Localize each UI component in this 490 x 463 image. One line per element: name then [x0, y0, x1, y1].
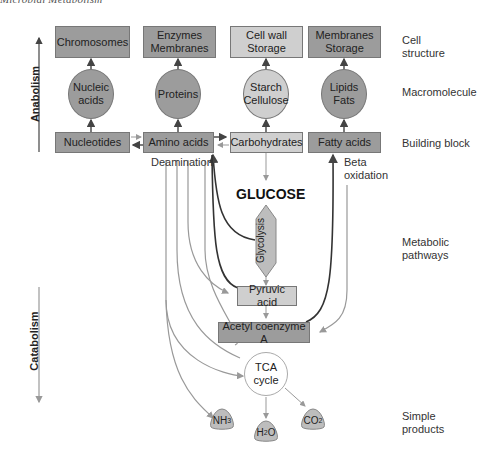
- cell-structure-membranes-storage: Membranes Storage: [308, 26, 381, 58]
- label-line: products: [402, 423, 444, 436]
- circle-text: Starch: [250, 81, 282, 94]
- box-text: Acetyl coenzyme A: [219, 320, 309, 346]
- box-text: Fatty acids: [318, 136, 371, 149]
- macromolecule-starch-cellulose: Starch Cellulose: [243, 69, 289, 119]
- formula: NH: [213, 415, 227, 426]
- cell-structure-chromosomes: Chromosomes: [55, 26, 130, 58]
- box-text: Enzymes: [157, 29, 202, 42]
- circle-text: Lipids: [330, 81, 359, 94]
- anabolism-label: Anabolism: [29, 66, 41, 122]
- pyruvic-acid-box: Pyruvic acid: [237, 286, 297, 306]
- product-co2: CO2: [299, 412, 327, 428]
- box-text: Membranes: [315, 29, 373, 42]
- beta-oxidation-label: Beta oxidation: [344, 156, 388, 182]
- glycolysis-label: Glycolysis: [255, 218, 266, 263]
- label-line: pathways: [402, 249, 449, 262]
- circle-text: Proteins: [158, 88, 198, 101]
- building-block-carbohydrates: Carbohydrates: [230, 132, 303, 153]
- label-line: Simple: [402, 410, 444, 423]
- box-text: Amino acids: [149, 136, 209, 149]
- macromolecule-lipids-fats: Lipids Fats: [321, 69, 367, 119]
- box-text: Storage: [325, 42, 364, 55]
- product-nh3: NH3: [208, 412, 236, 428]
- label-line: Beta: [344, 156, 388, 169]
- pathway-arrows: [0, 0, 490, 463]
- macromolecule-nucleic-acids: Nucleic acids: [68, 69, 114, 119]
- label-line: structure: [402, 47, 445, 60]
- product-h2o: H2O: [252, 424, 280, 440]
- box-text: Chromosomes: [57, 36, 129, 49]
- box-text: Pyruvic acid: [238, 283, 296, 309]
- level-macromolecule: Macromolecule: [402, 86, 477, 99]
- building-block-nucleotides: Nucleotides: [55, 132, 130, 153]
- box-text: Carbohydrates: [230, 136, 302, 149]
- catabolism-label: Catabolism: [28, 311, 40, 370]
- tca-text: TCA: [255, 361, 277, 374]
- circle-text: acids: [78, 94, 104, 107]
- subscript: 3: [227, 417, 231, 424]
- circle-text: Fats: [333, 94, 354, 107]
- level-cell-structure: Cell structure: [402, 34, 445, 60]
- formula: O: [268, 427, 276, 438]
- glucose-label: GLUCOSE: [236, 186, 305, 202]
- level-simple-products: Simple products: [402, 410, 444, 436]
- circle-text: Nucleic: [73, 81, 109, 94]
- label-line: Cell: [402, 34, 445, 47]
- box-text: Cell wall: [246, 29, 287, 42]
- building-block-amino-acids: Amino acids: [143, 132, 214, 153]
- tca-text: cycle: [253, 374, 278, 387]
- level-building-block: Building block: [402, 137, 470, 150]
- building-block-fatty-acids: Fatty acids: [308, 132, 381, 153]
- macromolecule-proteins: Proteins: [155, 69, 201, 119]
- circle-text: Cellulose: [243, 94, 288, 107]
- box-text: Membranes: [150, 42, 208, 55]
- formula: H: [257, 427, 264, 438]
- cell-structure-enzymes-membranes: Enzymes Membranes: [143, 26, 216, 58]
- label-line: oxidation: [344, 169, 388, 182]
- cell-structure-cell-wall-storage: Cell wall Storage: [230, 26, 303, 58]
- label-line: Metabolic: [402, 236, 449, 249]
- box-text: Nucleotides: [64, 136, 121, 149]
- deamination-label: Deamination: [151, 156, 213, 169]
- level-metabolic-pathways: Metabolic pathways: [402, 236, 449, 262]
- tca-cycle: TCA cycle: [244, 352, 288, 396]
- formula: CO: [304, 415, 319, 426]
- box-text: Storage: [247, 42, 286, 55]
- subscript: 2: [319, 417, 323, 424]
- acetyl-coa-box: Acetyl coenzyme A: [218, 322, 310, 343]
